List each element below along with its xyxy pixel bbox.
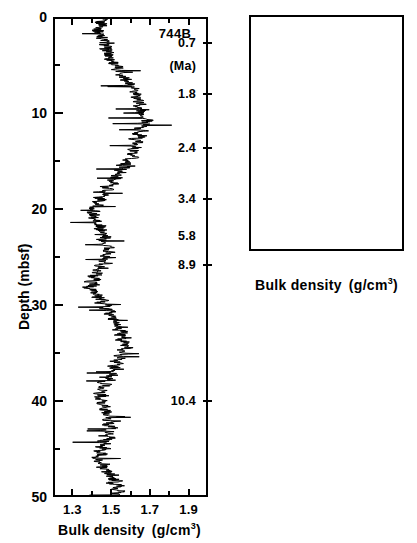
upper-age-label-0.7: 0.7: [158, 36, 196, 50]
upper-x-axis-title: Bulk density(g/cm3): [58, 521, 201, 538]
upper-y-major-tick-20: [53, 208, 63, 210]
upper-x-tick-label-1.3: 1.3: [63, 502, 82, 517]
upper-y-tick-label-50: 50: [11, 489, 47, 505]
upper-y-minor-tick: [53, 352, 60, 354]
upper-panel-trace-path: [70, 17, 171, 497]
upper-y-minor-tick: [53, 64, 60, 66]
upper-x-top-tick-1.3: [71, 17, 73, 25]
upper-age-label-10.4: 10.4: [158, 394, 196, 408]
upper-age-label-1.8: 1.8: [158, 87, 196, 101]
upper-age-datum-tick-10.4: [203, 400, 212, 402]
upper-x-minor-tick: [168, 491, 170, 497]
lower-panel-plot-area: [249, 15, 404, 251]
upper-x-tick-label-1.5: 1.5: [102, 502, 121, 517]
upper-x-major-tick-1.9: [188, 489, 190, 497]
upper-x-top-tick-1.7: [149, 17, 151, 25]
figure-bulk-density-744b: 744B Depth (mbsf) Bulk density(g/cm3) Bu…: [0, 0, 417, 543]
upper-y-major-tick-10: [53, 112, 63, 114]
upper-age-label-3.4: 3.4: [158, 192, 196, 206]
lower-panel: [249, 15, 404, 251]
upper-y-minor-tick: [53, 160, 60, 162]
upper-y-tick-label-0: 0: [11, 9, 47, 25]
upper-y-tick-label-20: 20: [11, 201, 47, 217]
upper-x-minor-tick: [130, 491, 132, 497]
upper-age-datum-tick-2.4: [203, 147, 212, 149]
upper-y-minor-tick: [53, 448, 60, 450]
upper-x-minor-tick: [91, 491, 93, 497]
upper-age-datum-tick-8.9: [203, 264, 212, 266]
upper-x-tick-label-1.9: 1.9: [179, 502, 198, 517]
upper-x-top-minor-tick: [91, 17, 93, 23]
upper-y-major-tick-40: [53, 400, 63, 402]
upper-x-major-tick-1.3: [71, 489, 73, 497]
upper-y-tick-label-40: 40: [11, 393, 47, 409]
upper-x-top-minor-tick: [168, 17, 170, 23]
upper-x-major-tick-1.7: [149, 489, 151, 497]
upper-y-tick-label-30: 30: [11, 297, 47, 313]
upper-x-axis-title-text: Bulk density: [58, 522, 145, 538]
upper-age-label-Ma: (Ma): [158, 59, 196, 73]
lower-x-axis-unit: (g/cm3): [349, 277, 398, 293]
upper-y-tick-label-10: 10: [11, 105, 47, 121]
upper-x-major-tick-1.5: [110, 489, 112, 497]
upper-age-label-2.4: 2.4: [158, 141, 196, 155]
upper-age-datum-tick-0.7: [203, 42, 212, 44]
upper-y-minor-tick: [53, 256, 60, 258]
lower-x-axis-title: Bulk density(g/cm3): [255, 276, 398, 293]
upper-age-datum-tick-3.4: [203, 198, 212, 200]
y-axis-title: Depth (mbsf): [16, 244, 32, 330]
upper-x-top-tick-1.5: [110, 17, 112, 25]
upper-age-label-5.8: 5.8: [158, 229, 196, 243]
upper-age-label-8.9: 8.9: [158, 258, 196, 272]
upper-y-major-tick-30: [53, 304, 63, 306]
lower-panel-density-trace: [249, 15, 404, 251]
upper-x-tick-label-1.7: 1.7: [141, 502, 160, 517]
upper-x-top-tick-1.9: [188, 17, 190, 25]
upper-x-top-minor-tick: [130, 17, 132, 23]
upper-x-axis-unit: (g/cm3): [152, 522, 201, 538]
lower-x-axis-title-text: Bulk density: [255, 277, 342, 293]
upper-age-datum-tick-1.8: [203, 93, 212, 95]
